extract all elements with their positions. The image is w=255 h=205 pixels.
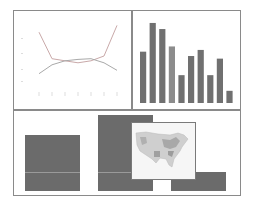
x-tick-label <box>91 92 92 96</box>
line-series-a <box>39 25 117 62</box>
x-tick-label <box>78 92 79 96</box>
line-chart-panel <box>15 12 130 108</box>
bar-9 <box>217 59 223 103</box>
block-panel <box>15 111 240 195</box>
block-a <box>25 135 80 191</box>
x-tick-label <box>39 92 40 96</box>
us-map-inset <box>131 122 196 180</box>
bar-2 <box>150 23 156 103</box>
x-tick-label <box>52 92 53 96</box>
y-tick-label <box>21 69 23 70</box>
y-tick-label <box>21 53 23 54</box>
line-chart <box>15 12 130 108</box>
bar-10 <box>226 91 232 103</box>
bar-1 <box>140 52 146 103</box>
y-tick-label <box>21 38 23 39</box>
x-tick-label <box>65 92 66 96</box>
bar-3 <box>159 29 165 103</box>
bar-chart-panel <box>133 12 240 108</box>
x-tick-label <box>104 92 105 96</box>
bar-6 <box>188 56 194 103</box>
x-tick-label <box>117 92 118 96</box>
us-map-icon <box>132 123 195 179</box>
bar-7 <box>198 50 204 103</box>
bar-5 <box>178 75 184 103</box>
block-stripe <box>25 172 80 173</box>
bar-4 <box>169 46 175 103</box>
y-tick-label <box>21 81 23 82</box>
line-series-b <box>39 59 117 74</box>
bar-chart <box>133 12 240 108</box>
bar-8 <box>207 75 213 103</box>
